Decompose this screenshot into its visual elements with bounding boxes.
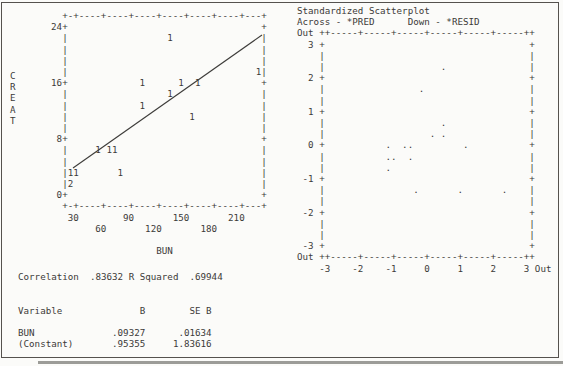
regression-statistics-block: Correlation .83632 R Squared .69944 Vari… [18, 271, 223, 349]
scan-edge-artifact [38, 361, 563, 364]
creat-vs-bun-scatterplot: +-+----+----+----+----+----+----+---+ 24… [40, 10, 267, 256]
spss-output-page: C R E A T +-+----+----+----+----+----+--… [0, 0, 563, 366]
y-axis-label-creat: C R E A T [10, 70, 16, 126]
standardized-residual-scatterplot: Standardized Scatterplot Across - *PRED … [297, 5, 551, 274]
